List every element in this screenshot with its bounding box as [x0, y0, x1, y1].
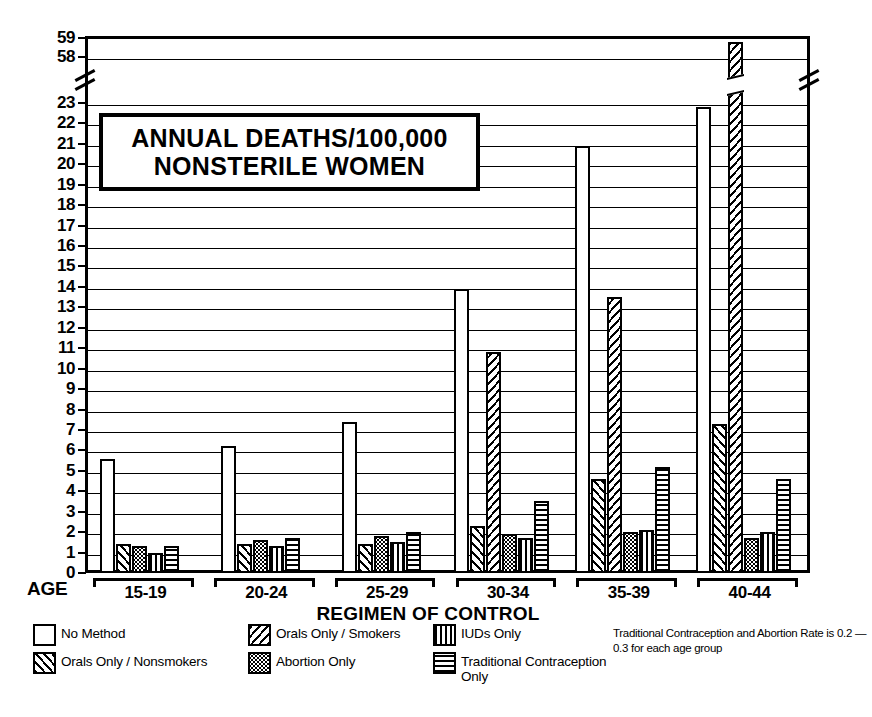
bar-25-29-iuds-only	[390, 542, 405, 573]
y-tick-mark	[78, 490, 86, 492]
y-tick-label-21: 21	[29, 135, 75, 152]
y-tick-mark	[78, 552, 86, 554]
bar-30-34-abortion-only	[502, 534, 517, 573]
legend-item-abortion-only[interactable]: Abortion Only	[248, 652, 355, 674]
y-tick-label-11: 11	[29, 339, 75, 356]
y-tick-label-19: 19	[29, 176, 75, 193]
legend-swatch-icon	[248, 652, 271, 674]
y-tick-label-22: 22	[29, 114, 75, 131]
chart-legend: Traditional Contraception and Abortion R…	[33, 624, 833, 694]
bar-35-39-traditional-contraception-only	[655, 467, 670, 573]
x-group-label-30-34: 30-34	[448, 583, 569, 603]
bar-20-24-abortion-only	[253, 540, 268, 573]
age-axis-label: AGE	[27, 578, 67, 600]
y-tick-label-1: 1	[29, 544, 75, 561]
y-tick-label-15: 15	[29, 257, 75, 274]
y-tick-mark	[78, 143, 86, 145]
bar-35-39-orals-only-smokers	[607, 297, 622, 573]
bar-25-29-orals-only-nonsmokers	[358, 544, 373, 573]
y-tick-mark	[78, 265, 86, 267]
y-tick-mark	[78, 306, 86, 308]
legend-label: No Method	[61, 624, 125, 641]
bar-15-19-orals-only-nonsmokers	[116, 544, 131, 573]
y-tick-label-8: 8	[29, 401, 75, 418]
y-tick-label-20: 20	[29, 155, 75, 172]
bar-30-34-no-method	[454, 289, 469, 573]
bar-40-44-no-method	[696, 107, 711, 573]
bar-25-29-abortion-only	[374, 536, 389, 573]
y-tick-mark	[78, 409, 86, 411]
x-group-label-20-24: 20-24	[206, 583, 327, 603]
y-tick-mark	[78, 511, 86, 513]
chart-title-box: ANNUAL DEATHS/100,000 NONSTERILE WOMEN	[99, 113, 480, 191]
bar-20-24-iuds-only	[269, 546, 284, 573]
y-tick-mark	[78, 572, 86, 574]
legend-item-no-method[interactable]: No Method	[33, 624, 125, 646]
bar-15-19-iuds-only	[148, 553, 163, 573]
bar-15-19-no-method	[100, 459, 115, 573]
y-tick-mark	[78, 56, 86, 58]
x-group-label-35-39: 35-39	[568, 583, 689, 603]
y-tick-label-13: 13	[29, 298, 75, 315]
legend-swatch-icon	[248, 624, 271, 646]
y-tick-mark	[78, 327, 86, 329]
gridline	[88, 105, 807, 106]
bar-40-44-iuds-only	[760, 532, 775, 573]
y-tick-mark	[78, 184, 86, 186]
legend-swatch-icon	[433, 652, 456, 674]
legend-item-traditional-contraception-only[interactable]: Traditional Contraception Only	[433, 652, 606, 684]
chart-title-line-2: NONSTERILE WOMEN	[154, 152, 425, 180]
y-tick-label-14: 14	[29, 278, 75, 295]
y-tick-mark	[78, 347, 86, 349]
bar-30-34-orals-only-nonsmokers	[470, 526, 485, 573]
y-tick-mark	[78, 225, 86, 227]
y-tick-mark	[78, 102, 86, 104]
bar-40-44-orals-only-smokers	[728, 42, 743, 573]
y-tick-mark	[78, 368, 86, 370]
legend-swatch-icon	[33, 652, 56, 674]
bar-35-39-orals-only-nonsmokers	[591, 479, 606, 573]
legend-swatch-icon	[433, 624, 456, 646]
gridline	[88, 59, 807, 60]
y-tick-label-10: 10	[29, 360, 75, 377]
y-tick-label-2: 2	[29, 523, 75, 540]
x-group-label-40-44: 40-44	[689, 583, 810, 603]
bar-20-24-traditional-contraception-only	[285, 538, 300, 573]
bar-25-29-no-method	[342, 422, 357, 573]
y-tick-mark	[78, 449, 86, 451]
bar-40-44-orals-only-nonsmokers	[712, 424, 727, 573]
y-tick-mark	[78, 163, 86, 165]
chart-title-line-1: ANNUAL DEATHS/100,000	[131, 124, 448, 152]
y-tick-label-58: 58	[29, 48, 75, 65]
y-tick-mark	[78, 122, 86, 124]
bar-40-44-traditional-contraception-only	[776, 479, 791, 573]
y-tick-mark	[78, 204, 86, 206]
bar-30-34-orals-only-smokers	[486, 352, 501, 573]
bar-break-marker	[727, 74, 744, 96]
legend-item-orals-only-nonsmokers[interactable]: Orals Only / Nonsmokers	[33, 652, 207, 674]
y-tick-label-17: 17	[29, 217, 75, 234]
y-tick-mark	[78, 245, 86, 247]
y-tick-label-59: 59	[29, 29, 75, 46]
y-tick-label-12: 12	[29, 319, 75, 336]
legend-swatch-icon	[33, 624, 56, 646]
legend-note: Traditional Contraception and Abortion R…	[613, 626, 872, 655]
y-tick-label-9: 9	[29, 380, 75, 397]
bar-40-44-abortion-only	[744, 538, 759, 573]
bar-15-19-traditional-contraception-only	[164, 546, 179, 573]
y-tick-label-3: 3	[29, 503, 75, 520]
y-tick-mark	[78, 388, 86, 390]
y-tick-mark	[78, 470, 86, 472]
legend-item-orals-only-smokers[interactable]: Orals Only / Smokers	[248, 624, 400, 646]
y-tick-mark	[78, 286, 86, 288]
y-tick-label-4: 4	[29, 482, 75, 499]
x-group-label-15-19: 15-19	[85, 583, 206, 603]
bar-25-29-traditional-contraception-only	[406, 532, 421, 573]
bar-30-34-traditional-contraception-only	[534, 501, 549, 573]
bar-35-39-no-method	[575, 146, 590, 573]
y-tick-mark	[78, 531, 86, 533]
legend-item-iuds-only[interactable]: IUDs Only	[433, 624, 521, 646]
y-tick-label-16: 16	[29, 237, 75, 254]
legend-label: Traditional Contraception Only	[461, 652, 606, 684]
